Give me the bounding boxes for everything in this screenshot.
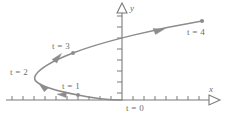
graph-canvas [0, 0, 228, 123]
label-t4: t = 4 [187, 27, 205, 37]
direction-arrow-icon [57, 92, 67, 97]
point-dot-t3 [71, 51, 75, 55]
direction-arrows [40, 29, 165, 98]
label-t2: t = 2 [10, 67, 28, 77]
y-axis-ticks [117, 16, 122, 93]
label-t0: t = 0 [126, 103, 144, 113]
label-t1: t = 1 [62, 81, 80, 91]
x-axis-arrowhead-icon [209, 95, 220, 105]
point-dot-t4 [200, 19, 204, 23]
curve-point-dots [71, 19, 204, 97]
x-axis-label: x [209, 84, 213, 94]
direction-arrow-icon [153, 29, 165, 35]
label-t3: t = 3 [52, 41, 70, 51]
y-axis-label: y [130, 3, 134, 13]
point-dot-t1 [76, 93, 80, 97]
parametric-curve-figure: y x t = 0 t = 1 t = 2 t = 3 t = 4 [0, 0, 228, 123]
y-axis-arrowhead-icon [117, 3, 127, 13]
